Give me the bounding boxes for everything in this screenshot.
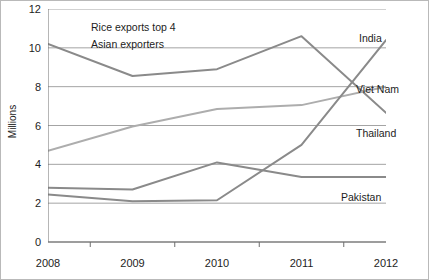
y-axis-tick-label: 10 bbox=[15, 42, 41, 54]
series-label-viet-nam: Viet Nam bbox=[356, 83, 399, 95]
series-label-india: India bbox=[359, 32, 382, 44]
annotation-line-1: Rice exports top 4 bbox=[91, 21, 176, 33]
x-axis-tick-label: 2008 bbox=[36, 257, 60, 269]
y-axis-tick-label: 8 bbox=[15, 81, 41, 93]
x-axis-tick-labels: 20082009201020112012 bbox=[1, 253, 429, 273]
x-axis-tick-label: 2010 bbox=[205, 257, 229, 269]
x-axis-tick-label: 2012 bbox=[374, 257, 398, 269]
x-axis-tick-label: 2009 bbox=[120, 257, 144, 269]
y-axis-tick-label: 0 bbox=[15, 236, 41, 248]
y-axis-tick-label: 4 bbox=[15, 158, 41, 170]
series-label-thailand: Thailand bbox=[356, 127, 396, 139]
y-axis-tick-label: 6 bbox=[15, 120, 41, 132]
y-axis-tick-labels: 024681012 bbox=[15, 1, 41, 280]
x-axis-tick-label: 2011 bbox=[290, 257, 314, 269]
series-line-viet-nam bbox=[48, 87, 386, 151]
y-axis-tick-label: 12 bbox=[15, 3, 41, 15]
y-axis-tick-label: 2 bbox=[15, 197, 41, 209]
annotation-line-2: Asian exporters bbox=[91, 38, 164, 50]
series-label-pakistan: Pakistan bbox=[341, 191, 381, 203]
chart-figure: Millions 024681012 20082009201020112012 … bbox=[0, 0, 429, 280]
series-line-pakistan bbox=[48, 162, 386, 189]
